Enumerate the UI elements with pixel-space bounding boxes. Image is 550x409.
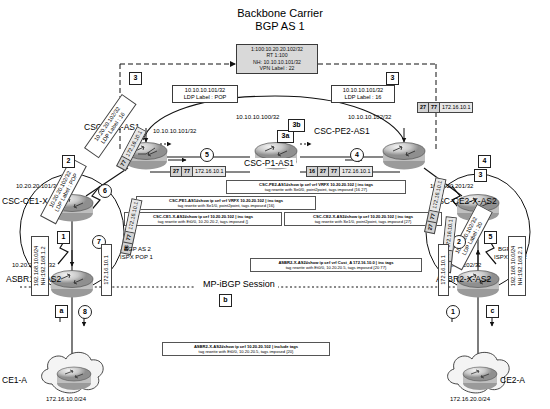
step-marker-6: 6: [98, 184, 112, 198]
left-nh-line1: 192.168.10.0/24: [33, 239, 40, 293]
cmd-ce1-line2: tag rewrite with Et0/0, 10.20.20.2, tags…: [127, 219, 279, 224]
left-nh-line2: NH:192.168.1.2: [40, 239, 47, 293]
right-prefix-text: 172.16.10.1: [440, 247, 447, 293]
ce1-network: 172.16.10.0/24: [46, 396, 86, 402]
loopback-pe2: 10.10.10.102/32: [348, 114, 391, 120]
stack-p1r-3: 172.16.10.1: [340, 167, 372, 176]
left-nh-box-wrap: 192.168.10.0/24 NH:192.168.1.2: [31, 236, 49, 296]
stack-label-2: 172.16.10.1: [440, 103, 472, 112]
label-csc-pe2: CSC-PE2-AS1: [314, 126, 370, 136]
step-marker-3-left: 3: [129, 72, 142, 85]
ldp-left-prefix: 10.10.10.101/32: [175, 87, 235, 94]
label-ce1: CE1-A: [2, 375, 27, 385]
cmd-pe1-line2: tag rewrite with Se1/0, point2point, tag…: [139, 203, 313, 208]
step-marker-8: 8: [78, 305, 92, 319]
cmd-box-asbr3: ASBR2-X-AS2#show ip cef 10.20.20.102 | i…: [162, 342, 330, 356]
step-marker-circle-5: 5: [200, 148, 214, 162]
ldp-right-label: LDP Label : 16: [334, 94, 392, 101]
step-marker-circle-1: 1: [446, 305, 460, 319]
diagram-canvas: Backbone Carrier BGP AS 1 1:100:10.20.20…: [0, 0, 550, 409]
step-marker-1: 1: [57, 231, 70, 244]
mpibgp-label: MP-iBGP Session: [200, 281, 278, 288]
ldp-left-label: LDP Label : POP: [175, 94, 235, 101]
step-marker-a: a: [55, 305, 68, 318]
router-icon-csc-pe2: [380, 138, 428, 172]
ldp-box-right: 10.10.10.101/32 LDP Label : 16: [331, 85, 395, 103]
vpn-label-box: 1:100:10.20.20.102/32 RT 1:100 NH: 10.10…: [236, 44, 318, 74]
ldp-right-prefix: 10.10.10.101/32: [334, 87, 392, 94]
cmd-box-csc-pe1: CSC-PE1-AS1#show ip cef vrf VRFX 10.20.2…: [136, 196, 316, 210]
label-stack-pe1-out: 27 77 172.16.10.1: [170, 166, 226, 177]
step-marker-c: c: [486, 305, 499, 318]
stack-p1r-2: 77: [329, 167, 340, 176]
stack-pe1-1: 77: [182, 167, 193, 176]
cmd-pe2-line2: tag rewrite with Se0/0, point2point, tag…: [229, 187, 403, 192]
stack-p1r-0: 16: [307, 167, 318, 176]
stack-pe1v-2: 172.16.10.1: [126, 199, 142, 233]
right-nh-line2: NH:192.168.2.1: [517, 239, 524, 293]
step-marker-3b: 3b: [288, 119, 305, 132]
loopback-ce1: 10.20.20.101/32: [16, 183, 59, 189]
cmd-box-csc-ce2: CSC-CE2-X-AS2#show ip cef 10.20.20.102 |…: [284, 212, 442, 226]
right-nh-line1: 192.168.10.0/24: [510, 239, 517, 293]
stack-pe2v-0: 27: [425, 220, 436, 233]
stack-p1r-1: 27: [318, 167, 329, 176]
label-left-as: BGP AS 2: [124, 246, 151, 253]
label-stack-top-right: 27 77 172.16.10.1: [417, 102, 473, 113]
step-marker-3-right: 3: [386, 72, 399, 85]
left-prefix-text: 172.16.10.1: [103, 247, 110, 293]
title-line-2: BGP AS 1: [205, 20, 355, 33]
cloud-icon-ce1: [34, 346, 112, 400]
label-ce2: CE2-A: [500, 375, 525, 385]
cmd-asbr2-line2: tag rewrite with Et0/0, 10.20.20.5, tags…: [253, 265, 419, 270]
stack-pe2v-1: 77: [427, 210, 438, 223]
stack-label-1: 77: [429, 103, 440, 112]
loopback-pe1: 10.10.10.101/32: [153, 128, 196, 134]
step-marker-circle-4: 4: [350, 148, 364, 162]
stack-label-0: 27: [418, 103, 429, 112]
label-stack-p1-right: 16 27 77 172.16.10.1: [306, 166, 373, 177]
cmd-box-csc-ce1: CSC-CE1-X-AS2#show ip cef 10.20.20.102 |…: [124, 212, 282, 226]
left-prefix-box-wrap: 172.16.10.1: [101, 244, 112, 296]
loopback-p1: 10.10.10.100/32: [236, 114, 279, 120]
step-marker-b: b: [219, 294, 232, 307]
label-csc-p1: CSC-P1-AS1: [242, 158, 296, 168]
ce2-network: 172.16.20.0/24: [450, 396, 490, 402]
right-prefix-box-wrap: 172.16.10.1: [438, 244, 449, 296]
step-marker-5: 5: [484, 231, 497, 244]
step-marker-2: 2: [62, 155, 75, 168]
page-title: Backbone Carrier BGP AS 1: [205, 7, 355, 33]
stack-pe1-0: 27: [171, 167, 182, 176]
cmd-box-asbr2: ASBR2-X-AS2#show ip cef vrf Cust_A 172.1…: [250, 258, 422, 272]
cmd-box-csc-pe2: CSC-PE2-AS1#show ip cef vrf VRFX 10.20.2…: [226, 180, 406, 194]
title-line-1: Backbone Carrier: [205, 7, 355, 20]
cmd-ce2-line2: tag rewrite with Se1/0, point2point, tag…: [287, 219, 439, 224]
label-left-pop: ISPX POP 1: [120, 254, 153, 261]
vpn-label: VPN Label : 22: [239, 65, 315, 71]
stack-pe1v-1: 77: [123, 231, 134, 244]
step-marker-4: 4: [478, 155, 491, 168]
ldp-box-left: 10.10.10.101/32 LDP Label : POP: [172, 85, 238, 103]
step-marker-3-side: 3: [474, 169, 487, 182]
stack-pe1-2: 172.16.10.1: [193, 167, 225, 176]
cmd-asbr3-line2: tag rewrite with Et0/0, 10.20.20.5, tags…: [165, 349, 327, 354]
right-nh-box-wrap: 192.168.10.0/24 NH:192.168.2.1: [508, 236, 526, 296]
cloud-icon-ce2: [440, 346, 518, 400]
